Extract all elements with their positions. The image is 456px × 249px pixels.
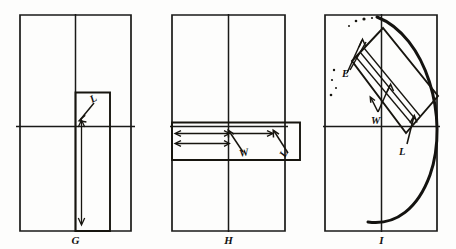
panel-h-caption: H	[223, 234, 233, 246]
panel-h: W L H	[170, 14, 300, 246]
speckle-dot	[335, 87, 337, 89]
figure-canvas: L G W L H	[0, 0, 456, 249]
panel-i-seam-line-2	[364, 48, 420, 116]
panel-h-label-L: L	[277, 148, 290, 160]
panel-g-patch	[76, 93, 111, 232]
figure-root: L G W L H	[0, 0, 456, 249]
speckle-dot	[362, 17, 365, 20]
speckle-dot	[371, 17, 373, 19]
panel-g: L G	[16, 14, 135, 246]
speckle-dot	[333, 69, 335, 71]
speckle-dot	[348, 25, 350, 27]
speckle-dot	[355, 20, 358, 23]
panel-i-label-W: W	[371, 115, 381, 126]
panel-h-label-W: W	[238, 146, 250, 159]
panel-i-label-L: L	[398, 146, 405, 157]
speckle-dot	[331, 79, 333, 81]
panel-i-label-E: E	[341, 68, 349, 79]
panel-g-label-L: L	[87, 92, 99, 105]
speckle-dot	[330, 94, 333, 97]
panel-i-seam-line-3	[356, 57, 412, 124]
panel-i-caption: I	[378, 234, 384, 246]
panel-i: E W L I	[323, 14, 440, 246]
panel-g-caption: G	[72, 234, 80, 246]
